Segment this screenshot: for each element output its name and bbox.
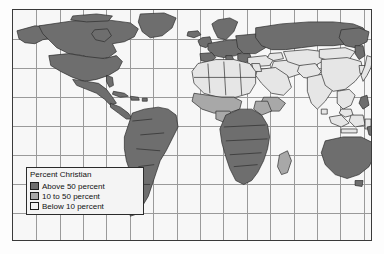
region-greenland bbox=[138, 13, 176, 38]
legend-swatch-10-to-50 bbox=[30, 192, 39, 200]
region-canada bbox=[39, 20, 138, 60]
region-hispaniola bbox=[130, 96, 139, 100]
map-frame: Percent Christian Above 50 percent 10 to… bbox=[12, 9, 372, 241]
map-legend: Percent Christian Above 50 percent 10 to… bbox=[26, 167, 144, 215]
region-scandinavia bbox=[212, 18, 238, 40]
legend-title: Percent Christian bbox=[30, 170, 140, 180]
region-florida bbox=[106, 75, 113, 87]
legend-swatch-above-50 bbox=[30, 182, 39, 190]
legend-label-10-to-50: 10 to 50 percent bbox=[42, 192, 100, 201]
world-map-figure: Percent Christian Above 50 percent 10 to… bbox=[0, 0, 384, 254]
region-canadian-arctic bbox=[71, 14, 113, 22]
legend-item-below-10: Below 10 percent bbox=[30, 201, 140, 211]
legend-item-above-50: Above 50 percent bbox=[30, 181, 140, 191]
region-indochina bbox=[337, 89, 355, 109]
region-java bbox=[341, 129, 357, 133]
region-central-america bbox=[110, 103, 132, 119]
legend-item-10-to-50: 10 to 50 percent bbox=[30, 191, 140, 201]
region-iceland bbox=[187, 31, 201, 38]
region-sri-lanka bbox=[321, 109, 327, 114]
region-central-southern-africa bbox=[220, 109, 270, 184]
region-cuba bbox=[112, 91, 128, 97]
region-kamchatka bbox=[355, 46, 365, 60]
region-philippines bbox=[359, 95, 369, 109]
legend-swatch-below-10 bbox=[30, 202, 39, 210]
region-china bbox=[321, 58, 363, 92]
legend-label-above-50: Above 50 percent bbox=[42, 182, 105, 191]
legend-label-below-10: Below 10 percent bbox=[42, 202, 104, 211]
region-borneo bbox=[349, 115, 365, 127]
region-madagascar bbox=[278, 151, 292, 175]
region-australia bbox=[321, 137, 371, 179]
region-puerto-rico bbox=[142, 98, 147, 101]
region-tasmania bbox=[355, 181, 363, 187]
region-papua-new-guinea bbox=[367, 125, 371, 137]
